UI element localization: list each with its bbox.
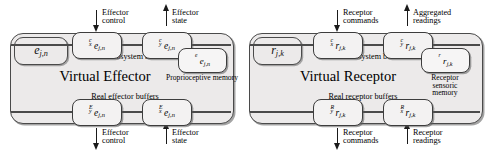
- buffer-receptor-real-x[interactable]: Rxrj,k: [383, 99, 433, 126]
- memory-expression: eej,n: [195, 55, 210, 67]
- effector-bottom-right-connector: [190, 111, 231, 113]
- arrow-label-line2: readings: [413, 136, 441, 145]
- arrow-effector-state-in: [166, 128, 167, 144]
- arrow-label-receptor-readings-bottom: Receptor readings: [413, 129, 443, 146]
- effector-tab-expression: ej,n: [34, 43, 48, 58]
- arrow-label-line2: control: [102, 136, 125, 145]
- receptor-tab-expression: rj,k: [271, 43, 284, 58]
- buffer-receptor-real-y[interactable]: Ryrj,k: [313, 99, 363, 126]
- receptor-sensoric-memory-caption: Receptorsensoricmemory: [409, 74, 481, 97]
- buffer-effector-control-x[interactable]: cxej,n: [72, 32, 122, 59]
- receptor-bottom-mid-connector: [361, 111, 383, 113]
- arrow-label-line2: control: [102, 16, 125, 25]
- arrow-label-effector-control-bottom: Effector control: [102, 129, 129, 146]
- arrow-label-effector-state-bottom: Effector state: [172, 129, 199, 146]
- receptor-bottom-right-connector: [431, 111, 480, 113]
- receptor-top-mid-connector: [361, 44, 383, 46]
- receptor-title: Virtual Receptor: [268, 68, 428, 85]
- arrow-effector-control-in: [96, 10, 97, 26]
- receptor-sensoric-memory-box[interactable]: rrj,k: [421, 48, 470, 73]
- receptor-bottom-left-connector: [250, 111, 314, 113]
- buffer-expression: Exej,n: [159, 106, 175, 118]
- buffer-expression: cyej,n: [159, 39, 175, 51]
- effector-bottom-mid-connector: [120, 111, 142, 113]
- arrow-label-line2: state: [172, 16, 187, 25]
- arrow-receptor-readings-in: [407, 128, 408, 144]
- arrow-receptor-commands-out: [337, 128, 338, 144]
- receptor-top-right-connector: [431, 44, 480, 46]
- arrow-effector-state-out: [166, 10, 167, 26]
- memory-expression: rrj,k: [438, 55, 452, 67]
- buffer-expression: cxej,n: [89, 39, 105, 51]
- arrow-label-line2: commands: [343, 16, 378, 25]
- receptor-top-left-connector: [250, 44, 314, 46]
- arrow-label-line2: commands: [343, 136, 378, 145]
- buffer-effector-real-x[interactable]: Exej,n: [142, 99, 192, 126]
- diagram-canvas: ej,n Virtual Effector Control subsystem …: [0, 0, 493, 157]
- buffer-effector-real-y[interactable]: Eyej,n: [72, 99, 122, 126]
- arrow-label-aggregated-readings: Aggregated readings: [413, 9, 451, 26]
- arrow-label-line2: state: [172, 136, 187, 145]
- buffer-expression: Ryrj,k: [331, 106, 346, 118]
- arrow-label-line2: readings: [413, 16, 441, 25]
- effector-top-right-connector: [190, 44, 231, 46]
- effector-top-mid-connector: [120, 44, 142, 46]
- arrow-label-receptor-commands-bottom: Receptor commands: [343, 129, 378, 146]
- arrow-label-effector-control-top: Effector control: [102, 9, 129, 26]
- arrow-effector-control-out: [96, 128, 97, 144]
- buffer-expression: Rxrj,k: [401, 106, 416, 118]
- buffer-expression: Eyej,n: [89, 106, 105, 118]
- arrow-label-receptor-commands-top: Receptor commands: [343, 9, 378, 26]
- effector-bottom-left-connector: [11, 111, 73, 113]
- proprioceptive-memory-box[interactable]: eej,n: [178, 48, 227, 73]
- effector-top-left-connector: [11, 44, 73, 46]
- arrow-receptor-commands-in: [337, 10, 338, 26]
- buffer-expression: cxrj,k: [331, 39, 346, 51]
- buffer-receptor-control-x[interactable]: cxrj,k: [313, 32, 363, 59]
- buffer-expression: cyrj,k: [401, 39, 416, 51]
- arrow-aggregated-readings-out: [407, 10, 408, 26]
- effector-title: Virtual Effector: [30, 68, 180, 85]
- proprioceptive-memory-caption: Proprioceptive memory: [166, 74, 238, 82]
- arrow-label-effector-state-top: Effector state: [172, 9, 199, 26]
